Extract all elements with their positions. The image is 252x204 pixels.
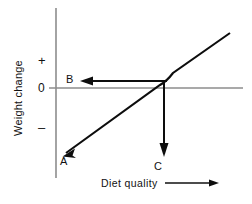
response-curve bbox=[66, 33, 230, 153]
arrow-head-c bbox=[160, 143, 169, 157]
x-axis-label-text: Diet quality bbox=[101, 178, 158, 189]
y-tick-plus: + bbox=[38, 54, 46, 67]
x-axis-arrow-head bbox=[209, 180, 219, 187]
y-tick-zero: 0 bbox=[38, 82, 45, 94]
annotation-label-c: C bbox=[154, 161, 162, 172]
figure-svg bbox=[0, 0, 252, 204]
annotation-label-b: B bbox=[66, 74, 73, 85]
y-axis-label: Weight change bbox=[8, 38, 28, 158]
y-tick-minus: – bbox=[38, 121, 45, 134]
annotation-label-a: A bbox=[60, 156, 67, 167]
arrow-head-b bbox=[80, 77, 93, 86]
figure-container: Weight change + 0 – A B C Diet quality bbox=[0, 0, 252, 204]
y-axis-label-text: Weight change bbox=[12, 60, 24, 136]
